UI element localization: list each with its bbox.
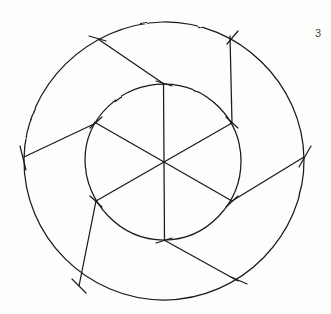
spoke-5 (79, 201, 96, 286)
geometric-figure-canvas (0, 0, 331, 314)
tick-inner-vertex-lower-left (90, 196, 102, 207)
inner-diameters (96, 84, 232, 240)
spoke-3 (232, 157, 304, 201)
tick-outer-vertex-left (20, 146, 26, 170)
tick-inner-vertex-upper-left (90, 117, 102, 128)
tick-outer-vertex-right (299, 146, 311, 167)
spoke-2 (230, 36, 232, 123)
spoke-4 (164, 240, 238, 281)
tick-outer-vertex-bottom-left (72, 279, 86, 293)
figure-number-label: 3 (315, 28, 321, 39)
spoke-1 (98, 39, 164, 84)
